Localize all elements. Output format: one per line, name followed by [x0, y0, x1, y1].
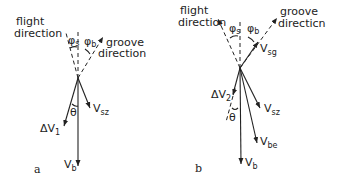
vb-arrow-b — [240, 68, 241, 164]
vsz-arrow-a — [78, 78, 90, 108]
angle-arc-phi-b-b — [248, 37, 254, 42]
panel-label-b: b — [195, 162, 202, 175]
phi-b-label-b: φb — [247, 22, 259, 36]
vsg-label-b: Vsg — [260, 42, 277, 57]
delta-v1-label: ΔV1 — [40, 122, 60, 137]
theta-label-a: θ — [70, 106, 77, 119]
vb-label-a: Vb — [64, 158, 77, 173]
panel-label-a: a — [34, 163, 41, 176]
vsz-label-a: Vsz — [93, 102, 109, 117]
theta-label-b: θ — [229, 111, 236, 124]
vector-diagram: flight direction groove direction φs φb … — [0, 0, 338, 186]
phi-s-label-a: φs — [68, 34, 79, 48]
direction-label-b: direction — [178, 16, 226, 29]
vsz-label-b: Vsz — [264, 102, 280, 117]
angle-arc-theta-b — [232, 108, 238, 110]
groove-direction-label-a: direction — [98, 47, 146, 60]
angle-arc-phi-b-a — [85, 49, 90, 54]
delta-v2-label: ΔV2 — [211, 88, 231, 103]
panel-b: flight direction groove directicn φs φb … — [178, 4, 326, 175]
vsg-arrow-b — [240, 42, 258, 68]
direction-label-a: direction — [14, 27, 62, 40]
panel-a: flight direction groove direction φs φb … — [14, 15, 146, 176]
angle-arc-phi-s-b — [230, 36, 238, 38]
groove-direction-label-b: directicn — [278, 17, 326, 30]
vbe-arrow-b — [240, 68, 257, 143]
vsz-arrow-b — [240, 68, 260, 108]
vbe-label-b: Vbe — [260, 135, 278, 150]
phi-b-label-a: φb — [84, 35, 96, 49]
phi-s-label-b: φs — [229, 22, 240, 36]
vb-label-b: Vb — [245, 156, 258, 171]
